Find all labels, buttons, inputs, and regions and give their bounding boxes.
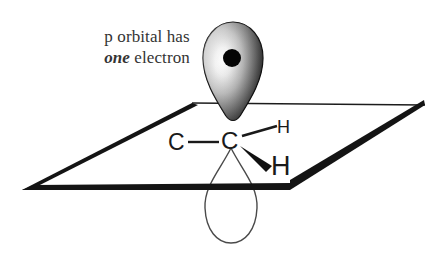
p-orbital-upper-lobe-sheen xyxy=(203,22,263,121)
plane-right-edge-band xyxy=(290,100,425,190)
caption-line-2: one electron xyxy=(88,47,206,68)
plane-bottom-edge-band xyxy=(22,183,290,190)
bond-c-h-upper xyxy=(242,126,277,136)
caption-emphasis: one xyxy=(104,48,130,67)
atom-label-carbon-left: C xyxy=(168,131,185,154)
atom-label-hydrogen-upper: H xyxy=(277,118,290,136)
caption-line-2-rest: electron xyxy=(130,48,190,67)
atom-label-hydrogen-lower: H xyxy=(271,153,291,180)
caption-line-1: p orbital has xyxy=(88,26,206,47)
atom-label-carbon-center: C xyxy=(221,129,238,153)
p-orbital-diagram: p orbital has one electron C C H H xyxy=(0,0,447,254)
p-orbital-lower-lobe-shape xyxy=(205,148,257,243)
bond-c-h-lower-wedge xyxy=(240,146,272,172)
electron-dot xyxy=(223,49,241,67)
caption-text: p orbital has one electron xyxy=(88,26,206,68)
